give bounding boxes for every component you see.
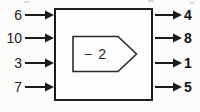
output-row: 5 [155,80,200,94]
scan-artifact [190,2,194,4]
arrow-right-icon [25,33,54,43]
input-value: 3 [0,56,22,70]
input-value: 6 [0,8,22,22]
arrow-right-icon [155,33,182,43]
operation-label: − 2 [72,35,119,73]
output-row: 8 [155,31,200,45]
input-row: 6 [0,8,54,22]
operation-tag: − 2 [72,35,138,73]
output-value: 8 [184,31,192,45]
input-row: 7 [0,80,54,94]
output-value: 5 [184,80,192,94]
scan-artifact [148,0,154,2]
output-value: 4 [184,8,192,22]
function-machine-diagram: − 2 6 10 3 7 4 [0,0,200,112]
scan-artifact [24,1,29,3]
output-row: 1 [155,56,200,70]
input-row: 10 [0,31,54,45]
arrow-right-icon [25,58,54,68]
arrow-right-icon [25,82,54,92]
arrow-right-icon [155,82,182,92]
input-value: 10 [0,31,22,45]
input-value: 7 [0,80,22,94]
input-row: 3 [0,56,54,70]
output-value: 1 [184,56,192,70]
arrow-right-icon [155,10,182,20]
arrow-right-icon [25,10,54,20]
output-row: 4 [155,8,200,22]
arrow-right-icon [155,58,182,68]
